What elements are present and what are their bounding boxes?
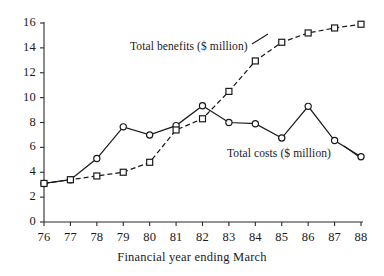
series-label-1: Total costs ($ million) [227,147,331,159]
data-point-square [226,88,232,94]
x-tick-label: 80 [136,230,164,245]
x-tick-label: 85 [268,230,296,245]
x-tick-label: 86 [294,230,322,245]
data-point-circle [358,154,364,160]
x-tick-label: 82 [189,230,217,245]
data-point-square [173,127,179,133]
chart-container: 0246810121416 76777879808182838485868788… [0,0,384,276]
data-point-circle [305,103,311,109]
x-tick-label: 87 [321,230,349,245]
y-tick-label: 4 [8,164,36,179]
x-tick-label: 88 [347,230,375,245]
data-point-square [358,21,364,27]
x-tick-label: 84 [241,230,269,245]
annotation-leader-line [344,146,358,156]
x-axis-title: Financial year ending March [0,250,384,265]
data-point-circle [120,124,126,130]
data-point-circle [199,103,205,109]
data-point-square [332,25,338,31]
data-point-circle [331,137,337,143]
data-point-square [94,173,100,179]
y-tick-label: 14 [8,40,36,55]
data-point-square [252,58,258,64]
data-point-square [305,30,311,36]
x-tick-label: 77 [56,230,84,245]
series-label-0: Total benefits ($ million) [130,40,248,52]
y-tick-label: 12 [8,65,36,80]
data-point-square [67,177,73,183]
x-tick-label: 76 [30,230,58,245]
data-point-square [200,116,206,122]
data-point-circle [279,135,285,141]
y-tick-label: 6 [8,139,36,154]
x-tick-label: 83 [215,230,243,245]
y-tick-label: 10 [8,90,36,105]
data-point-circle [147,132,153,138]
y-tick-label: 2 [8,189,36,204]
annotation-leader-line [252,34,268,44]
data-point-square [41,180,47,186]
y-tick-label: 8 [8,115,36,130]
data-point-circle [94,155,100,161]
x-tick-label: 78 [83,230,111,245]
data-point-circle [226,119,232,125]
y-tick-label: 0 [8,214,36,229]
data-point-circle [252,121,258,127]
y-tick-label: 16 [8,15,36,30]
x-tick-label: 81 [162,230,190,245]
data-point-square [120,169,126,175]
data-point-square [279,39,285,45]
data-point-square [147,159,153,165]
x-tick-label: 79 [109,230,137,245]
